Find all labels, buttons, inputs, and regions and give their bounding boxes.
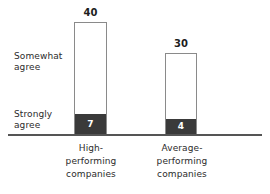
bar-segment-somewhat-agree-high-performing: 7 — [74, 22, 107, 135]
category-label-high-performing-companies: High- performing companies — [50, 142, 132, 181]
category-label-2-line3: companies — [138, 168, 226, 181]
category-label-1-line3: companies — [50, 168, 132, 181]
bar-total-label-high-performing: 40 — [74, 8, 107, 18]
category-label-1-line1: High- — [50, 142, 132, 155]
legend-label-strongly-agree: Strongly agree — [14, 109, 76, 131]
legend-label-somewhat-agree-line2: agree — [14, 62, 76, 73]
bar-total-label-average-performing: 30 — [165, 39, 197, 49]
bar-segment-somewhat-agree-average-performing: 4 — [165, 53, 197, 135]
category-label-2-line2: performing — [138, 155, 226, 168]
bar-high-performing-companies: 7 — [74, 22, 107, 135]
bar-segment-strongly-agree-average-performing: 4 — [166, 119, 196, 134]
bar-average-performing-companies: 4 — [165, 53, 197, 135]
legend-label-strongly-agree-line2: agree — [14, 120, 76, 131]
legend-label-somewhat-agree: Somewhat agree — [14, 51, 76, 73]
legend-label-somewhat-agree-line1: Somewhat — [14, 51, 76, 62]
bar-segment-strongly-agree-high-performing: 7 — [75, 114, 106, 134]
category-label-average-performing-companies: Average- performing companies — [138, 142, 226, 181]
bar-segment-value-average-performing: 4 — [178, 122, 184, 131]
axis-baseline — [8, 134, 262, 136]
category-label-1-line2: performing — [50, 155, 132, 168]
legend-label-strongly-agree-line1: Strongly — [14, 109, 76, 120]
category-label-2-line1: Average- — [138, 142, 226, 155]
stacked-bar-chart: Somewhat agree Strongly agree 40 7 30 4 … — [0, 0, 270, 194]
bar-segment-value-high-performing: 7 — [87, 120, 93, 129]
